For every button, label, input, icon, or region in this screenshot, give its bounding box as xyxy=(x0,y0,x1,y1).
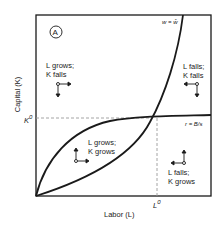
curve-r-label: r = B/s xyxy=(185,120,203,129)
region-middle-label: L grows; K grows xyxy=(88,138,116,156)
phase-diagram-canvas xyxy=(0,0,224,225)
arrows-upper-right xyxy=(184,82,199,97)
panel-label: A xyxy=(53,28,58,37)
region-middle-line2: K grows xyxy=(88,147,116,156)
arrows-middle xyxy=(74,148,89,163)
curve-w-equals-wbar xyxy=(36,15,183,196)
x-axis-label: Labor (L) xyxy=(104,210,134,219)
region-lower-right-line1: L falls; xyxy=(168,168,195,177)
region-upper-left-line2: K falls xyxy=(46,70,74,79)
region-upper-right-line1: L falls; xyxy=(183,62,204,71)
region-upper-left-label: L grows; K falls xyxy=(46,61,74,79)
l0-label: L0 xyxy=(153,198,161,210)
region-upper-right-label: L falls; K falls xyxy=(183,62,204,80)
arrows-lower-right xyxy=(171,150,186,165)
region-upper-right-line2: K falls xyxy=(183,71,204,80)
arrows-upper-left xyxy=(56,82,71,97)
k0-label: K0 xyxy=(24,113,32,125)
region-lower-right-line2: K grows xyxy=(168,177,195,186)
y-axis-label: Capital (K) xyxy=(13,70,22,120)
curve-w-label: w = w̄ xyxy=(162,18,178,27)
l0-superscript: 0 xyxy=(157,199,160,205)
region-middle-line1: L grows; xyxy=(88,138,116,147)
region-upper-left-line1: L grows; xyxy=(46,61,74,70)
k0-superscript: 0 xyxy=(29,114,32,120)
region-lower-right-label: L falls; K grows xyxy=(168,168,195,186)
